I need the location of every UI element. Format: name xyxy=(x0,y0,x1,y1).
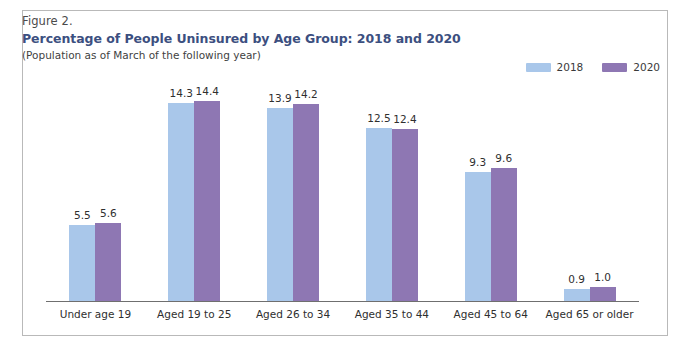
x-axis-label: Aged 45 to 64 xyxy=(441,308,540,320)
chart-legend: 20182020 xyxy=(526,61,660,73)
bar-value-label: 14.3 xyxy=(170,87,193,99)
plot-area: 5.55.614.314.413.914.212.512.49.39.60.91… xyxy=(46,78,646,302)
figure-header: Figure 2. Percentage of People Uninsured… xyxy=(22,14,582,62)
bar-2018: 5.5 xyxy=(69,225,95,301)
figure-subtitle: (Population as of March of the following… xyxy=(22,48,582,62)
bar-value-label: 13.9 xyxy=(268,92,291,104)
bar-pair: 12.512.4 xyxy=(366,128,418,301)
bar-value-label: 14.4 xyxy=(196,85,219,97)
bar-pair: 14.314.4 xyxy=(168,101,220,301)
bar-2020: 9.6 xyxy=(491,168,517,301)
x-axis-label: Aged 19 to 25 xyxy=(145,308,244,320)
bar-2018: 13.9 xyxy=(267,108,293,301)
bar-value-label: 12.5 xyxy=(367,112,390,124)
legend-label: 2020 xyxy=(633,61,660,73)
bar-group: 5.55.6 xyxy=(46,78,145,302)
x-axis-label: Aged 35 to 44 xyxy=(342,308,441,320)
bar-value-label: 9.6 xyxy=(495,152,512,164)
bar-pair: 13.914.2 xyxy=(267,104,319,301)
legend-swatch-icon xyxy=(602,63,627,72)
x-axis-label: Aged 65 or older xyxy=(540,308,639,320)
legend-item: 2020 xyxy=(602,61,660,73)
bar-pair: 5.55.6 xyxy=(69,223,121,301)
x-axis-line xyxy=(46,301,639,302)
bar-value-label: 1.0 xyxy=(594,271,611,283)
bar-value-label: 5.5 xyxy=(74,209,91,221)
x-axis-label: Under age 19 xyxy=(46,308,145,320)
bar-2020: 1.0 xyxy=(590,287,616,301)
bar-value-label: 0.9 xyxy=(568,273,585,285)
bar-value-label: 14.2 xyxy=(294,88,317,100)
bar-2018: 14.3 xyxy=(168,103,194,301)
bar-pair: 0.91.0 xyxy=(564,287,616,301)
bar-2020: 12.4 xyxy=(392,129,418,301)
bar-2020: 14.4 xyxy=(194,101,220,301)
bar-value-label: 9.3 xyxy=(469,156,486,168)
bar-group: 0.91.0 xyxy=(540,78,639,302)
figure-title: Percentage of People Uninsured by Age Gr… xyxy=(22,30,582,47)
bar-value-label: 5.6 xyxy=(100,207,117,219)
bar-2018: 9.3 xyxy=(465,172,491,301)
legend-label: 2018 xyxy=(557,61,584,73)
bar-2020: 5.6 xyxy=(95,223,121,301)
bar-group: 14.314.4 xyxy=(145,78,244,302)
legend-swatch-icon xyxy=(526,63,551,72)
bar-pair: 9.39.6 xyxy=(465,168,517,301)
bar-2018: 0.9 xyxy=(564,289,590,301)
x-axis-label: Aged 26 to 34 xyxy=(244,308,343,320)
bar-2018: 12.5 xyxy=(366,128,392,301)
bar-group: 9.39.6 xyxy=(441,78,540,302)
bar-groups: 5.55.614.314.413.914.212.512.49.39.60.91… xyxy=(46,78,639,302)
bar-value-label: 12.4 xyxy=(393,113,416,125)
bar-2020: 14.2 xyxy=(293,104,319,301)
figure-number: Figure 2. xyxy=(22,14,582,29)
legend-item: 2018 xyxy=(526,61,584,73)
bar-group: 13.914.2 xyxy=(244,78,343,302)
x-axis-labels: Under age 19Aged 19 to 25Aged 26 to 34Ag… xyxy=(46,308,639,320)
bar-group: 12.512.4 xyxy=(342,78,441,302)
